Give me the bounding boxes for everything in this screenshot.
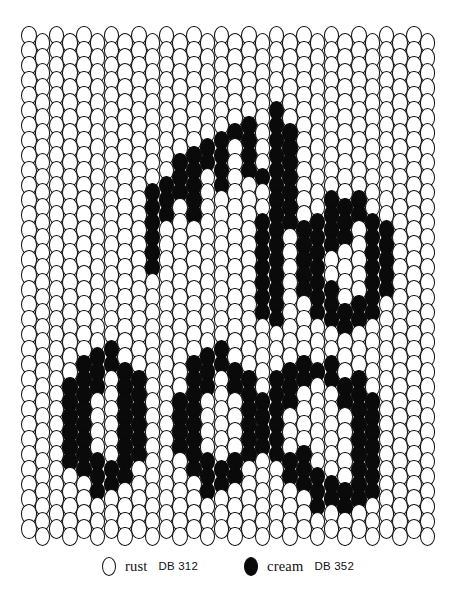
legend-color-name: cream [267,558,303,575]
bead [227,527,243,546]
bead [35,527,51,546]
bead-grid [21,26,435,538]
bead [200,527,216,546]
open-oval-icon [102,557,116,576]
bead-pattern-chart: rust DB 312 cream DB 352 [0,0,456,599]
bead [255,527,271,546]
legend-item-rust: rust DB 312 [102,557,198,576]
legend-color-code: DB 312 [159,560,199,572]
bead [420,527,436,546]
bead [172,527,188,546]
legend-color-name: rust [125,558,148,575]
legend: rust DB 312 cream DB 352 [0,548,456,584]
bead [62,527,78,546]
bead [282,527,298,546]
bead [90,527,106,546]
bead [117,527,133,546]
bead [392,527,408,546]
bead [365,527,381,546]
filled-oval-icon [244,557,258,576]
legend-item-cream: cream DB 352 [244,557,354,576]
bead [337,527,353,546]
bead [145,527,161,546]
bead [310,527,326,546]
legend-color-code: DB 352 [314,560,354,572]
